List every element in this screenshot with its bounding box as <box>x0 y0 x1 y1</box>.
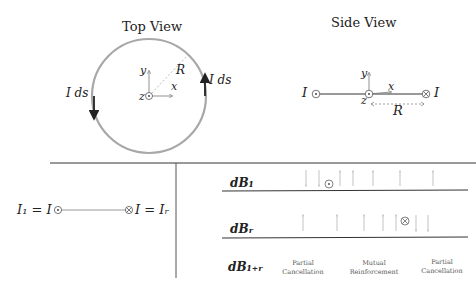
side-radius-label: R <box>393 103 403 118</box>
diagram-canvas <box>0 0 476 294</box>
wire-right-label: I = Iᵣ <box>135 202 169 217</box>
row-label-dB1: dB₁ <box>230 176 254 190</box>
row-label-dB1r: dB₁₊ᵣ <box>228 260 263 274</box>
side-current-right: I <box>434 85 439 100</box>
side-x-label: x <box>388 80 394 93</box>
top-view <box>92 39 206 153</box>
row-label-dBr: dBᵣ <box>230 222 254 236</box>
side-view-title: Side View <box>331 15 396 30</box>
radius-label: R <box>176 63 185 77</box>
top-view-title: Top View <box>122 19 182 34</box>
y-axis-label: y <box>140 64 146 77</box>
current-element-left-label: I ds <box>66 86 88 100</box>
annotation-partial-cancellation-1: Partial Cancellation <box>273 259 333 277</box>
side-current-left: I <box>302 85 307 100</box>
side-view <box>312 73 430 106</box>
x-axis-label: x <box>171 80 177 93</box>
side-y-label: y <box>361 67 367 80</box>
row2-field-arrows <box>303 215 428 231</box>
side-z-label: z <box>361 94 367 107</box>
wire-pair <box>54 206 132 213</box>
annotation-mutual-reinforcement: Mutual Reinforcement <box>342 259 406 277</box>
wire-left-label: I₁ = I <box>17 202 52 217</box>
z-axis-label: z <box>139 90 145 103</box>
annotation-partial-cancellation-2: Partial Cancellation <box>412 258 472 276</box>
current-element-right-label: I ds <box>209 73 231 87</box>
